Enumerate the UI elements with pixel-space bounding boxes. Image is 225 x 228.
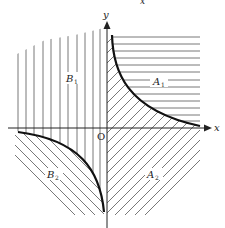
x-axis-label: x bbox=[214, 122, 220, 133]
region-label-a1: A 1 bbox=[150, 75, 168, 88]
region-b1-hatching bbox=[18, 20, 100, 215]
svg-text:2: 2 bbox=[155, 174, 159, 181]
region-label-a2: A 2 bbox=[145, 168, 163, 181]
svg-text:A: A bbox=[152, 76, 160, 87]
svg-text:2: 2 bbox=[55, 174, 59, 181]
y-axis-arrow-icon bbox=[104, 21, 111, 29]
svg-text:1: 1 bbox=[74, 78, 78, 85]
y-axis-label: y bbox=[102, 9, 109, 20]
region-b2-hatching bbox=[0, 40, 110, 228]
svg-text:B: B bbox=[46, 169, 54, 180]
origin-label: O bbox=[97, 131, 105, 142]
svg-text:A: A bbox=[146, 169, 154, 180]
svg-text:B: B bbox=[65, 73, 73, 84]
x-axis-arrow-icon bbox=[204, 125, 212, 132]
svg-text:1: 1 bbox=[161, 81, 165, 88]
region-label-b2: B 2 bbox=[45, 168, 63, 181]
hyperbola-region-diagram: x bbox=[0, 0, 225, 228]
region-label-b1: B 1 bbox=[64, 72, 82, 85]
top-fragment-label: x bbox=[140, 0, 145, 6]
